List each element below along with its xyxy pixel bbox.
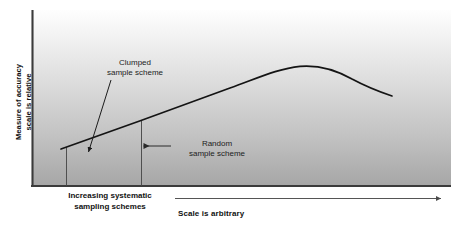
x-axis-caption: Scale is arbitrary — [178, 209, 328, 220]
annotation-clumped-sample-scheme: Clumped sample scheme — [93, 58, 177, 78]
chart-figure: Measure of accuracy scale is relative Cl… — [0, 0, 451, 228]
plot-background — [32, 10, 451, 186]
x-axis-lower-caption: Increasing systematic sampling schemes — [34, 191, 186, 212]
annotation-random-sample-scheme: Random sample scheme — [174, 139, 260, 159]
y-axis-title: Measure of accuracy scale is relative — [14, 27, 34, 177]
